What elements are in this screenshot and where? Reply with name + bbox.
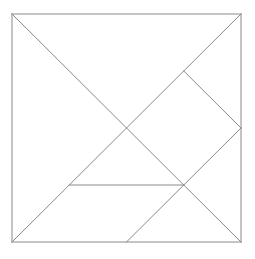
tangram-canvas <box>0 0 255 259</box>
small-triangle-edge <box>184 71 241 128</box>
tangram-line-group <box>12 14 241 242</box>
parallelogram-edge <box>127 185 184 242</box>
square-piece-edge <box>184 128 241 185</box>
tangram-figure <box>0 0 255 259</box>
